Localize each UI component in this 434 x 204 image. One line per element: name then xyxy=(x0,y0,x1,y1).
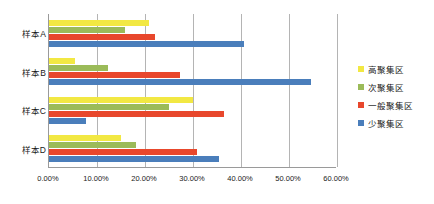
bar-row xyxy=(49,97,336,103)
x-tick-label-4: 40.00% xyxy=(227,174,252,183)
gridline xyxy=(337,14,338,167)
category-label-3: 样本D xyxy=(0,143,46,155)
category-label-2: 样本C xyxy=(0,104,46,116)
bar-group xyxy=(49,97,336,124)
x-tick-label-1: 10.00% xyxy=(83,174,108,183)
bar[interactable] xyxy=(49,20,149,26)
legend-swatch-icon xyxy=(358,84,364,90)
bar-row xyxy=(49,58,336,64)
bar[interactable] xyxy=(49,135,121,141)
bar-row xyxy=(49,118,336,124)
bar[interactable] xyxy=(49,156,219,162)
legend-label: 一般聚集区 xyxy=(368,99,413,111)
bar-row xyxy=(49,34,336,40)
legend-label: 次聚集区 xyxy=(368,81,404,93)
bar-row xyxy=(49,111,336,117)
legend-swatch-icon xyxy=(358,120,364,126)
category-label-1: 样本B xyxy=(0,66,46,78)
legend-label: 高聚集区 xyxy=(368,63,404,75)
legend-swatch-icon xyxy=(358,102,364,108)
bar-group xyxy=(49,58,336,85)
bar[interactable] xyxy=(49,111,224,117)
plot-area xyxy=(48,14,336,168)
x-tick-label-0: 0.00% xyxy=(37,174,58,183)
bar[interactable] xyxy=(49,142,136,148)
bar-row xyxy=(49,20,336,26)
x-tick-label-5: 50.00% xyxy=(275,174,300,183)
bar[interactable] xyxy=(49,104,169,110)
legend-item-2[interactable]: 一般聚集区 xyxy=(358,96,432,114)
bar-row xyxy=(49,156,336,162)
bar-row xyxy=(49,72,336,78)
legend-label: 少聚集区 xyxy=(368,117,404,129)
bar-row xyxy=(49,142,336,148)
bar-row xyxy=(49,79,336,85)
bar-row xyxy=(49,149,336,155)
bar-row xyxy=(49,27,336,33)
bar-group xyxy=(49,135,336,162)
bar-row xyxy=(49,41,336,47)
bar-group xyxy=(49,20,336,47)
bar[interactable] xyxy=(49,79,311,85)
chart-legend: 高聚集区次聚集区一般聚集区少聚集区 xyxy=(358,60,432,132)
bar[interactable] xyxy=(49,41,244,47)
bar-row xyxy=(49,65,336,71)
bar[interactable] xyxy=(49,58,75,64)
legend-item-0[interactable]: 高聚集区 xyxy=(358,60,432,78)
bar[interactable] xyxy=(49,118,86,124)
bar[interactable] xyxy=(49,97,193,103)
bar-row xyxy=(49,135,336,141)
x-tick-label-3: 30.00% xyxy=(179,174,204,183)
legend-swatch-icon xyxy=(358,66,364,72)
bar[interactable] xyxy=(49,27,125,33)
bar[interactable] xyxy=(49,149,197,155)
x-tick-label-2: 20.00% xyxy=(131,174,156,183)
bar[interactable] xyxy=(49,34,155,40)
bar[interactable] xyxy=(49,72,180,78)
category-label-0: 样本A xyxy=(0,27,46,39)
x-tick-label-6: 60.00% xyxy=(323,174,348,183)
legend-item-1[interactable]: 次聚集区 xyxy=(358,78,432,96)
bar-chart: 样本A样本B样本C样本D 0.00%10.00%20.00%30.00%40.0… xyxy=(0,0,434,204)
legend-item-3[interactable]: 少聚集区 xyxy=(358,114,432,132)
bar-row xyxy=(49,104,336,110)
bar[interactable] xyxy=(49,65,108,71)
